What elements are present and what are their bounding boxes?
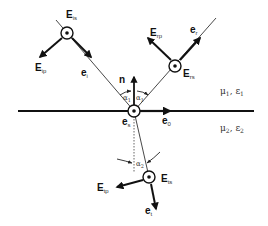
er-arrow (180, 38, 200, 60)
label-et: et (145, 205, 153, 217)
Etp-arrow (117, 180, 143, 187)
Ers-dot (173, 64, 177, 68)
label-Etp: Etp (97, 182, 109, 194)
Eip-arrow (40, 38, 62, 57)
label-Ets: Ets (161, 173, 172, 185)
alpha2-left-arrow (117, 159, 132, 163)
label-n: n (119, 74, 125, 85)
Ets-dot (147, 175, 151, 179)
label-Eip: Eip (35, 62, 47, 74)
label-er: er (190, 24, 198, 36)
ei-arrow (72, 38, 91, 57)
label-medium-1: μ1, ε1 (220, 86, 244, 97)
label-alpha2: α2 (136, 160, 144, 169)
label-ei: ei (81, 67, 88, 79)
label-es: es (122, 116, 131, 128)
label-Erp: Erp (150, 27, 163, 39)
alpha2-right-arrow (147, 152, 160, 163)
label-Ers: Ers (183, 68, 195, 80)
label-alpha1-left: α1 (123, 94, 131, 103)
label-e0: e0 (162, 115, 172, 127)
label-alpha1-right: α1 (136, 94, 144, 103)
label-Eis: Eis (66, 9, 77, 21)
Erp-arrow (148, 38, 171, 60)
Eis-dot (65, 31, 69, 35)
optics-diagram: Eis Eip ei Erp er Ers n α1 α1 es e0 α2 E… (0, 0, 268, 226)
origin-es-dot (132, 109, 136, 113)
label-medium-2: μ2, ε2 (220, 123, 244, 134)
et-arrow (151, 184, 156, 209)
